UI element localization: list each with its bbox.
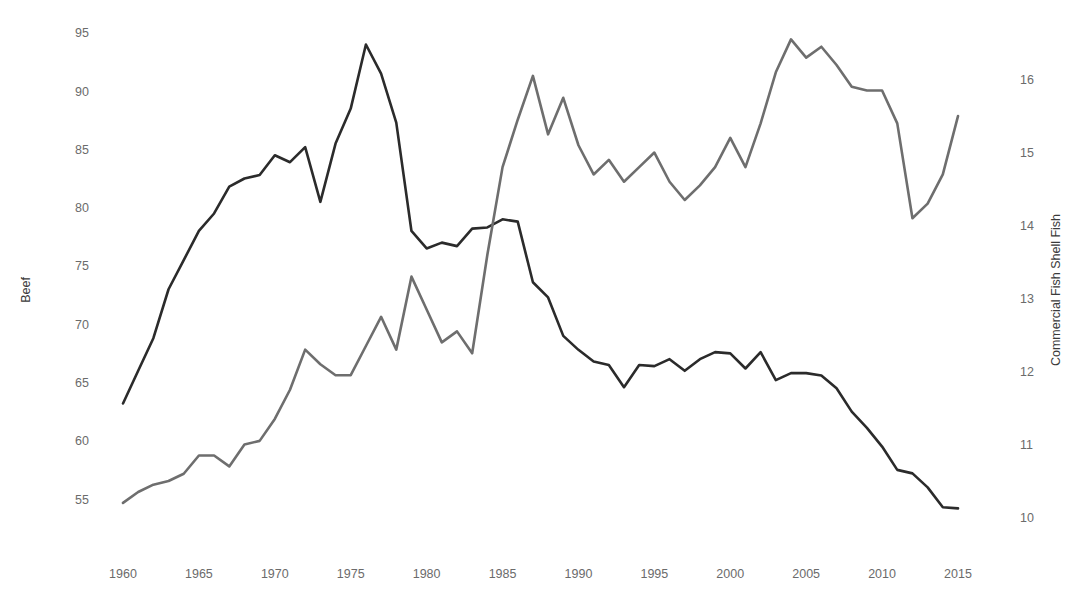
x-axis-tick: 1985: [489, 567, 517, 581]
left-axis-title: Beef: [19, 277, 33, 303]
x-axis-tick: 1975: [337, 567, 365, 581]
right-axis-tick: 16: [1020, 73, 1034, 87]
left-axis-tick: 85: [75, 143, 89, 157]
series-line-commercial-fish-shell-fish: [123, 39, 958, 503]
left-axis-tick: 75: [75, 259, 89, 273]
left-axis-tick: 90: [75, 85, 89, 99]
x-axis-tick: 1970: [261, 567, 289, 581]
x-axis-tick: 2000: [716, 567, 744, 581]
left-axis-tick: 60: [75, 434, 89, 448]
left-axis-tick: 70: [75, 318, 89, 332]
dual-axis-line-chart: 556065707580859095 10111213141516 196019…: [0, 0, 1088, 605]
left-axis-tick: 55: [75, 493, 89, 507]
right-axis-tick: 14: [1020, 219, 1034, 233]
chart-container: 556065707580859095 10111213141516 196019…: [0, 0, 1088, 605]
series-line-beef: [123, 44, 958, 508]
x-axis-tick: 1990: [565, 567, 593, 581]
right-axis-tick: 11: [1020, 438, 1033, 452]
left-axis-tick: 95: [75, 26, 89, 40]
right-axis-tick: 12: [1020, 365, 1034, 379]
left-axis-tick: 65: [75, 376, 89, 390]
right-axis-tick: 13: [1020, 292, 1034, 306]
x-axis-tick: 2005: [792, 567, 820, 581]
x-axis-tick: 1980: [413, 567, 441, 581]
right-axis-tick: 15: [1020, 146, 1034, 160]
x-axis-tick: 2015: [944, 567, 972, 581]
x-axis-tick: 2010: [868, 567, 896, 581]
right-axis-tick: 10: [1020, 511, 1034, 525]
right-axis-title: Commercial Fish Shell Fish: [1049, 214, 1063, 366]
x-axis-tick: 1995: [640, 567, 668, 581]
x-axis-tick: 1960: [109, 567, 137, 581]
x-axis-tick: 1965: [185, 567, 213, 581]
plot-area: 556065707580859095 10111213141516 196019…: [19, 26, 1063, 581]
series-lines: [123, 39, 958, 508]
left-axis-tick-labels: 556065707580859095: [75, 26, 89, 506]
right-axis-tick-labels: 10111213141516: [1020, 73, 1034, 525]
x-axis-tick-labels: 1960196519701975198019851990199520002005…: [109, 567, 972, 581]
left-axis-tick: 80: [75, 201, 89, 215]
